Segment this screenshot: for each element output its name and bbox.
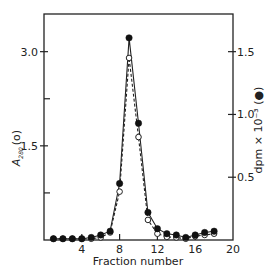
dpm-data-point [201, 229, 207, 235]
svg-text:A280(o): A280(o) [10, 130, 24, 167]
dpm-data-point [173, 232, 179, 238]
dpm-data-point [145, 209, 151, 215]
dpm-data-point [69, 236, 75, 242]
dpm-data-point [79, 236, 85, 242]
y-right-axis-label: dpm × 10⁻³ (●) [252, 87, 265, 174]
y-left-label-main: A [10, 159, 23, 168]
y-left-label-subscript: 280 [17, 147, 24, 159]
y-left-label-suffix: (o) [10, 130, 23, 145]
x-tick-label: 16 [188, 243, 202, 256]
dpm-data-point [50, 236, 56, 242]
dpm-data-point [154, 226, 160, 232]
dpm-data-point [60, 236, 66, 242]
x-axis-label: Fraction number [93, 255, 184, 268]
dpm-data-point [135, 120, 141, 126]
dpm-data-point [164, 231, 170, 237]
y-right-tick-label: 1.5 [237, 46, 255, 59]
dpm-series-line [54, 38, 215, 239]
a280-data-point [136, 134, 142, 140]
y-left-tick-label: 3.0 [21, 46, 39, 59]
y-right-axis-ticks: 0.51.01.5 [228, 46, 255, 185]
x-tick-label: 4 [78, 243, 85, 256]
dpm-data-point [211, 228, 217, 234]
x-tick-label: 20 [226, 243, 240, 256]
y-left-axis-label: A280(o) [10, 130, 24, 167]
a280-data-point [145, 217, 151, 223]
dpm-data-point [116, 180, 122, 186]
dpm-data-point [192, 232, 198, 238]
dpm-data-point [126, 35, 132, 41]
y-left-axis-ticks: 1.53.0 [21, 46, 51, 193]
dpm-data-point [107, 228, 113, 234]
dpm-data-point [183, 234, 189, 240]
chart: 48121620 1.53.0 0.51.01.5 Fraction numbe… [0, 0, 275, 272]
a280-data-point [126, 55, 132, 61]
a280-data-point [117, 189, 123, 195]
svg-text:dpm × 10⁻³ (●): dpm × 10⁻³ (●) [252, 87, 265, 174]
dpm-data-point [88, 234, 94, 240]
series-layer [50, 35, 217, 242]
dpm-data-point [98, 232, 104, 238]
